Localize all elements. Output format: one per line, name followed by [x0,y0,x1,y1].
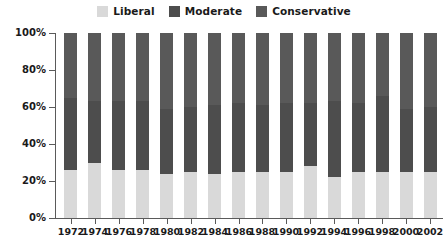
bar-segment-liberal [64,170,77,218]
bar-segment-conservative [328,33,341,101]
x-axis-label: 2002 [415,227,445,237]
legend-label-liberal: Liberal [113,6,155,17]
x-axis-tick [167,219,168,224]
legend-swatch-moderate [169,6,180,17]
bar-1984 [208,33,221,218]
bar-segment-conservative [160,33,173,109]
bar-segment-moderate [400,109,413,172]
bar-1978 [136,33,149,218]
bar-segment-conservative [112,33,125,101]
bar-1986 [232,33,245,218]
plot-area [59,33,442,218]
y-axis-tick [49,218,55,219]
bar-1976 [112,33,125,218]
bar-segment-moderate [88,101,101,162]
bar-segment-moderate [280,103,293,171]
bar-segment-conservative [184,33,197,107]
bar-segment-liberal [304,166,317,218]
chart-legend: Liberal Moderate Conservative [0,6,448,17]
bar-segment-conservative [136,33,149,101]
bar-segment-conservative [352,33,365,103]
x-axis-tick [334,219,335,224]
y-axis-label: 40% [0,139,46,149]
x-axis-tick [358,219,359,224]
bar-segment-conservative [256,33,269,105]
x-axis-tick [382,219,383,224]
bar-segment-liberal [352,172,365,218]
bar-segment-moderate [208,105,221,173]
bar-segment-conservative [424,33,437,107]
x-axis-tick [310,219,311,224]
bar-segment-liberal [88,163,101,219]
x-axis-tick [119,219,120,224]
y-axis-label: 100% [0,28,46,38]
bar-segment-liberal [232,172,245,218]
y-axis-tick [49,181,55,182]
bar-segment-conservative [280,33,293,103]
bar-1974 [88,33,101,218]
legend-swatch-liberal [97,6,108,17]
bar-segment-conservative [232,33,245,103]
bar-1990 [280,33,293,218]
y-axis-tick [49,33,55,34]
bar-segment-liberal [280,172,293,218]
y-axis-line [55,33,56,219]
y-axis-label: 20% [0,176,46,186]
bar-2000 [400,33,413,218]
bar-segment-liberal [136,170,149,218]
bar-1988 [256,33,269,218]
legend-swatch-conservative [256,6,267,17]
y-axis-tick [49,70,55,71]
bar-segment-liberal [400,172,413,218]
bar-1980 [160,33,173,218]
bar-segment-moderate [376,96,389,172]
bar-segment-moderate [64,98,77,170]
bar-segment-moderate [136,101,149,169]
bar-1994 [328,33,341,218]
bar-segment-liberal [328,177,341,218]
x-axis-line [55,218,443,219]
x-axis-tick [406,219,407,224]
y-axis-label: 80% [0,65,46,75]
bar-1992 [304,33,317,218]
bar-segment-liberal [256,172,269,218]
bar-segment-liberal [208,174,221,218]
bar-segment-conservative [400,33,413,109]
bar-1982 [184,33,197,218]
bar-segment-conservative [88,33,101,101]
bar-segment-liberal [112,170,125,218]
bar-segment-moderate [256,105,269,172]
bar-segment-moderate [232,103,245,171]
x-axis-tick [239,219,240,224]
bar-segment-liberal [160,174,173,218]
legend-item-moderate: Moderate [169,6,243,17]
bar-segment-conservative [64,33,77,98]
bar-segment-moderate [304,103,317,166]
bar-segment-liberal [424,172,437,218]
x-axis-tick [215,219,216,224]
x-axis-tick [71,219,72,224]
x-axis-tick [143,219,144,224]
bar-segment-conservative [208,33,221,105]
legend-item-liberal: Liberal [97,6,155,17]
y-axis-label: 0% [0,213,46,223]
bar-segment-moderate [112,101,125,169]
y-axis-tick [49,107,55,108]
bar-2002 [424,33,437,218]
legend-label-moderate: Moderate [185,6,243,17]
bar-1998 [376,33,389,218]
bar-segment-moderate [184,107,197,172]
bar-segment-moderate [424,107,437,172]
bar-segment-moderate [160,109,173,174]
x-axis-tick [430,219,431,224]
x-axis-tick [191,219,192,224]
y-axis-label: 60% [0,102,46,112]
x-axis-tick [262,219,263,224]
x-axis-tick [95,219,96,224]
bar-segment-liberal [184,172,197,218]
legend-label-conservative: Conservative [272,6,351,17]
x-axis-tick [286,219,287,224]
bar-segment-liberal [376,172,389,218]
bar-segment-conservative [304,33,317,103]
bar-segment-conservative [376,33,389,96]
